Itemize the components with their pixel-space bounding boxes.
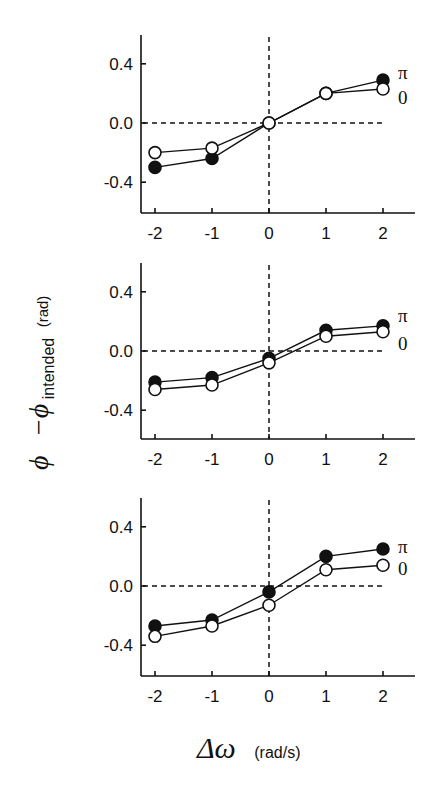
x-tick-label: -2 bbox=[147, 224, 162, 243]
y-tick-label: 0.4 bbox=[109, 283, 133, 302]
filled-marker bbox=[263, 586, 275, 598]
x-tick-label: 2 bbox=[378, 450, 387, 469]
ylabel-minus-phi: −ϕ bbox=[23, 404, 54, 437]
x-tick-label: -1 bbox=[204, 687, 219, 706]
x-tick-label: 1 bbox=[321, 687, 330, 706]
ylabel-unit: (rad) bbox=[34, 296, 51, 328]
x-tick-label: -2 bbox=[147, 450, 162, 469]
x-tick-label: 1 bbox=[321, 450, 330, 469]
open-marker bbox=[377, 326, 389, 338]
ylabel-subscript: intended bbox=[40, 338, 57, 399]
figure: 0.40.0-0.4-2-1012π00.40.0-0.4-2-1012π00.… bbox=[0, 0, 438, 792]
open-marker bbox=[149, 383, 161, 395]
open-marker bbox=[263, 117, 275, 129]
panel-bottom: 0.40.0-0.4-2-1012π0 bbox=[104, 498, 415, 706]
open-marker bbox=[377, 559, 389, 571]
x-axis-label: Δω (rad/s) bbox=[196, 731, 300, 764]
x-tick-label: 2 bbox=[378, 687, 387, 706]
y-tick-label: -0.4 bbox=[104, 401, 133, 420]
y-tick-label: 0.0 bbox=[109, 114, 133, 133]
xlabel-symbol: Δω bbox=[196, 731, 236, 764]
y-axis-label: ϕ −ϕ intended (rad) bbox=[23, 296, 57, 470]
open-marker bbox=[377, 83, 389, 95]
y-tick-label: 0.0 bbox=[109, 342, 133, 361]
panel-top: 0.40.0-0.4-2-1012π0 bbox=[104, 35, 415, 243]
y-tick-label: 0.0 bbox=[109, 577, 133, 596]
x-tick-label: -1 bbox=[204, 450, 219, 469]
y-tick-label: 0.4 bbox=[109, 518, 133, 537]
open-marker bbox=[206, 379, 218, 391]
open-marker bbox=[206, 142, 218, 154]
legend-pi: π bbox=[398, 62, 408, 83]
legend-zero: 0 bbox=[398, 333, 408, 354]
y-tick-label: -0.4 bbox=[104, 173, 133, 192]
x-tick-label: -2 bbox=[147, 687, 162, 706]
open-marker bbox=[149, 630, 161, 642]
y-tick-label: -0.4 bbox=[104, 636, 133, 655]
legend-zero: 0 bbox=[398, 558, 408, 579]
x-tick-label: 0 bbox=[264, 224, 273, 243]
x-tick-label: 2 bbox=[378, 224, 387, 243]
legend-zero: 0 bbox=[398, 87, 408, 108]
legend-pi: π bbox=[398, 305, 408, 326]
filled-marker bbox=[377, 543, 389, 555]
legend-pi: π bbox=[398, 536, 408, 557]
panels: 0.40.0-0.4-2-1012π00.40.0-0.4-2-1012π00.… bbox=[104, 35, 415, 706]
panel-middle: 0.40.0-0.4-2-1012π0 bbox=[104, 263, 415, 469]
xlabel-unit: (rad/s) bbox=[254, 744, 300, 761]
open-marker bbox=[263, 357, 275, 369]
open-marker bbox=[149, 147, 161, 159]
open-marker bbox=[206, 620, 218, 632]
svg-text:Δω (rad/s): Δω (rad/s) bbox=[196, 731, 300, 764]
svg-text:ϕ −ϕ intended: ϕ −ϕ intended (rad) bbox=[23, 296, 57, 470]
y-tick-label: 0.4 bbox=[109, 55, 133, 74]
open-marker bbox=[320, 330, 332, 342]
filled-marker bbox=[320, 550, 332, 562]
x-tick-label: 0 bbox=[264, 450, 273, 469]
filled-marker bbox=[149, 161, 161, 173]
open-marker bbox=[320, 87, 332, 99]
open-marker bbox=[320, 564, 332, 576]
ylabel-phi: ϕ bbox=[23, 456, 54, 471]
x-tick-label: 1 bbox=[321, 224, 330, 243]
x-tick-label: -1 bbox=[204, 224, 219, 243]
open-marker bbox=[263, 599, 275, 611]
x-tick-label: 0 bbox=[264, 687, 273, 706]
